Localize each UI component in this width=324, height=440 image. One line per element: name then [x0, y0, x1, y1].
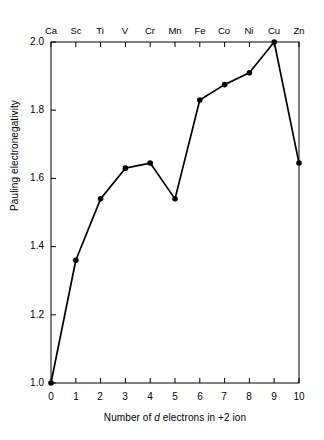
data-markers — [48, 39, 302, 386]
axes-frame — [51, 42, 299, 383]
chart-figure: Pauling electronegativity Number of d el… — [0, 0, 324, 440]
axis-ticks — [51, 42, 299, 383]
plot-area — [0, 0, 324, 440]
data-line — [51, 42, 299, 383]
